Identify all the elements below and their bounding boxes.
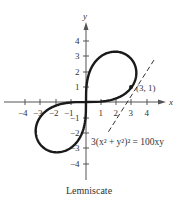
tangent-line xyxy=(107,60,154,134)
point-label: (3, 1) xyxy=(136,83,156,93)
x-tick-label: 3 xyxy=(129,108,134,118)
figure-caption: Lemniscate xyxy=(66,185,113,196)
y-tick-label: −2 xyxy=(70,128,80,138)
lemniscate-figure: x −4 −3 −2 −1 1 2 3 4 y xyxy=(0,0,186,204)
x-axis-label: x xyxy=(168,97,173,107)
y-tick-label: 2 xyxy=(75,67,80,77)
x-tick-label: −4 xyxy=(18,108,28,118)
equation-label: 3(x² + y²)² = 100xy xyxy=(91,137,164,148)
y-tick-label: 1 xyxy=(75,82,80,92)
x-axis-arrow-icon xyxy=(158,100,166,105)
y-axis-arrow-icon xyxy=(84,22,89,30)
x-tick-label: 2 xyxy=(114,108,119,118)
point-marker xyxy=(129,85,133,89)
y-tick-label: −4 xyxy=(70,159,80,169)
x-tick-label: −2 xyxy=(49,108,59,118)
x-tick-label: 1 xyxy=(99,108,104,118)
y-tick-label: 4 xyxy=(75,36,80,46)
y-tick-label: 3 xyxy=(75,51,80,61)
x-axis: x −4 −3 −2 −1 1 2 3 4 xyxy=(4,97,173,118)
y-tick-label: −1 xyxy=(70,113,80,123)
y-axis-label: y xyxy=(82,11,87,21)
x-tick-label: 4 xyxy=(145,108,150,118)
